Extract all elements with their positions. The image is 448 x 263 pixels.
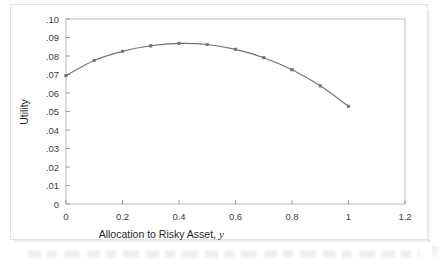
data-point-marker <box>347 105 350 108</box>
data-point-marker <box>93 59 96 62</box>
y-tick-label: 0 <box>54 199 59 210</box>
chart-svg: 00.20.40.60.811.2 0.01.02.03.04.05.06.07… <box>0 0 448 263</box>
y-axis-tick-labels: 0.01.02.03.04.05.06.07.08.09.10 <box>46 14 59 210</box>
y-tick-label: .08 <box>46 51 59 62</box>
data-point-marker <box>121 50 124 53</box>
y-tick-label: .10 <box>46 14 59 25</box>
x-axis-tick-labels: 00.20.40.60.811.2 <box>63 211 411 222</box>
data-point-marker <box>262 56 265 59</box>
scan-corner-artifact <box>432 246 439 258</box>
data-point-marker <box>234 48 237 51</box>
data-point-marker <box>291 68 294 71</box>
x-axis-title: Allocation to Risky Asset, <box>99 228 216 240</box>
x-tick-label: 1.2 <box>398 211 411 222</box>
data-point-marker <box>206 43 209 46</box>
data-point-marker <box>178 42 181 45</box>
y-tick-label: .04 <box>46 125 59 136</box>
x-tick-label: 0.4 <box>172 211 185 222</box>
y-tick-label: .09 <box>46 32 59 43</box>
y-tick-label: .06 <box>46 88 59 99</box>
data-point-marker <box>319 84 322 87</box>
y-tick-label: .01 <box>46 180 59 191</box>
y-axis-title: Utility <box>18 98 30 124</box>
utility-allocation-chart: 00.20.40.60.811.2 0.01.02.03.04.05.06.07… <box>0 0 448 263</box>
figure-page: 00.20.40.60.811.2 0.01.02.03.04.05.06.07… <box>0 0 448 263</box>
scan-bleed-artifact <box>28 250 420 258</box>
x-tick-label: 0.8 <box>285 211 298 222</box>
y-tick-label: .05 <box>46 106 59 117</box>
x-tick-label: 0 <box>63 211 68 222</box>
x-tick-label: 0.6 <box>229 211 242 222</box>
x-axis-title-symbol: y <box>218 228 224 240</box>
y-tick-label: .07 <box>46 69 59 80</box>
data-point-marker <box>65 74 68 77</box>
plot-frame <box>66 19 405 204</box>
y-tick-label: .03 <box>46 143 59 154</box>
x-tick-label: 0.2 <box>116 211 129 222</box>
y-tick-label: .02 <box>46 162 59 173</box>
data-point-marker <box>149 45 152 48</box>
x-tick-label: 1 <box>346 211 351 222</box>
